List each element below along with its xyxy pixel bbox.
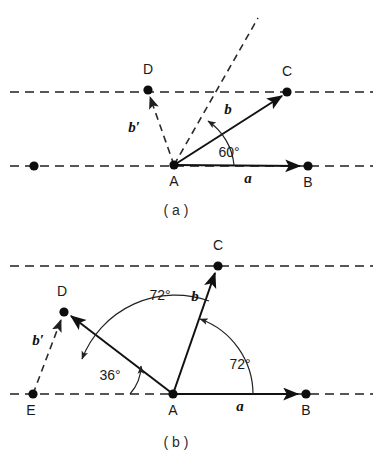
panel-b-label-D: D [57,283,67,299]
panel-a-label-D: D [143,61,153,77]
panel-b-label-B: B [301,402,310,418]
panel-b-point-E [28,389,37,398]
panel-a-caption: ( a ) [164,202,189,218]
panel-a-point-C [282,87,291,96]
panel-b-point-B [301,389,310,398]
panel-b-vector-label-b-prime: b′ [32,332,44,348]
panel-a-label-A: A [169,173,179,189]
panel-a-point-origin-left [29,161,38,170]
panel-b-caption: ( b ) [164,434,189,450]
panel-b-point-C [213,261,222,270]
vector-diagram-figure: A B C D a b b′ 60° ( a ) A B [0,0,383,463]
panel-a-point-A [169,160,178,169]
panel-a-label-B: B [303,174,312,190]
panel-a-vector-label-b-prime: b′ [128,119,140,135]
panel-a-label-C: C [282,63,292,79]
panel-a-vector-label-b: b [224,101,232,117]
panel-b-angle-label-72-right: 72° [229,356,250,372]
panel-b-point-D [59,307,68,316]
panel-b-label-C: C [213,237,223,253]
panel-b-angle-label-72-left: 72° [149,287,170,303]
panel-b-label-E: E [26,402,35,418]
panel-a-vector-a [174,165,300,166]
panel-a-vector-label-a: a [244,170,252,186]
panel-b-angle-label-36: 36° [99,367,120,383]
panel-a-point-B [303,161,312,170]
panel-b-point-A [168,389,177,398]
panel-b-label-A: A [168,402,178,418]
panel-b-vector-label-b: b [191,288,199,304]
panel-a-point-D [143,85,152,94]
panel-a-angle-label-60: 60° [218,144,239,160]
panel-b-vector-label-a: a [236,398,244,414]
